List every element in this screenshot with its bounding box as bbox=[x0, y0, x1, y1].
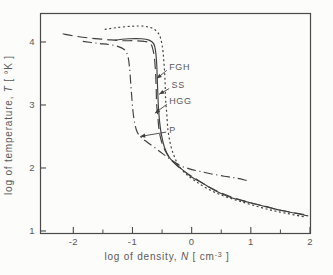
curve-label-hgg: HGG bbox=[169, 96, 192, 106]
y-tick-label: 2 bbox=[29, 162, 35, 173]
y-tick-label: 1 bbox=[29, 225, 35, 236]
figure-scan: -2-10121234log of density, N [ cm-3 ]log… bbox=[0, 0, 333, 275]
series-p-line bbox=[83, 41, 248, 180]
y-axis-label: log of temperature, T [ °K ] bbox=[3, 55, 14, 195]
x-axis-label: log of density, N [ cm-3 ] bbox=[104, 251, 229, 263]
x-tick-label: -1 bbox=[128, 236, 137, 247]
x-tick-label: 0 bbox=[189, 236, 195, 247]
plot-border bbox=[41, 14, 311, 234]
temperature-density-chart: -2-10121234log of density, N [ cm-3 ]log… bbox=[0, 0, 333, 275]
x-tick-label: 2 bbox=[307, 236, 313, 247]
x-tick-label: 1 bbox=[248, 236, 254, 247]
y-tick-label: 3 bbox=[29, 99, 35, 110]
curve-label-fgh: FGH bbox=[169, 62, 190, 72]
x-tick-label: -2 bbox=[69, 236, 78, 247]
series-hgg-line bbox=[63, 34, 309, 215]
curve-label-ss: SS bbox=[172, 80, 185, 90]
series-fgh-line bbox=[115, 39, 309, 216]
curve-label-arrowhead-hgg bbox=[155, 109, 160, 114]
curve-label-p: P bbox=[169, 125, 176, 135]
y-tick-label: 4 bbox=[29, 36, 35, 47]
